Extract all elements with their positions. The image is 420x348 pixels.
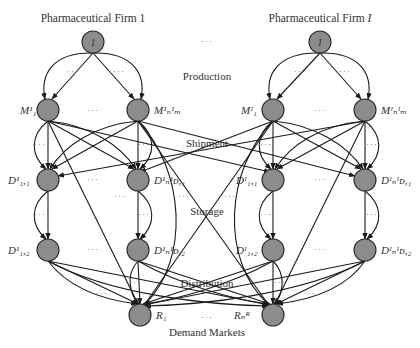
svg-text:···: ··· [67,66,79,76]
svg-text:···: ··· [87,244,99,254]
svg-text:···: ··· [138,139,150,149]
svg-text:R₁: R₁ [155,309,167,321]
svg-text:···: ··· [34,139,46,149]
node-firm-I: I [309,31,331,53]
node-manufacturing-plant: M¹ₙ¹ₘ [127,99,181,121]
svg-text:···: ··· [304,288,316,298]
svg-text:···: ··· [366,209,378,219]
node-firm-1: 1 [82,31,104,53]
svg-text:···: ··· [96,288,108,298]
svg-text:···: ··· [274,277,286,287]
svg-text:···: ··· [87,105,99,115]
svg-text:···: ··· [87,174,99,184]
svg-text:D¹ₙ¹ᴅ,₁: D¹ₙ¹ᴅ,₁ [153,174,185,186]
distribution-edges [48,261,365,306]
svg-text:I: I [317,37,322,48]
svg-text:···: ··· [314,105,326,115]
node-demand-market: Rₙᴿ [233,304,284,326]
stage-demand-markets-label: Demand Markets [169,326,245,338]
svg-text:Mᴵₙᴵₘ: Mᴵₙᴵₘ [380,104,407,116]
svg-text:···: ··· [294,66,306,76]
svg-text:···: ··· [314,174,326,184]
node-distribution-center: D¹₁,₁ [7,169,59,191]
svg-text:···: ··· [113,66,125,76]
node-manufacturing-plant: Mᴵ₁ [240,99,284,121]
pharmaceutical-supply-chain-diagram: Pharmaceutical Firm 1 Pharmaceutical Fir… [0,0,420,348]
svg-text:···: ··· [260,139,272,149]
svg-text:···: ··· [314,244,326,254]
svg-text:···: ··· [125,277,137,287]
svg-text:···: ··· [260,209,272,219]
node-manufacturing-plant: Mᴵₙᴵₘ [354,99,407,121]
svg-text:Dᴵ₁,₂: Dᴵ₁,₂ [235,244,257,256]
node-storage-center: D¹ₙ¹ᴅ,₂ [127,239,185,261]
svg-text:···: ··· [201,312,213,322]
svg-text:···: ··· [34,209,46,219]
svg-text:M¹ₙ¹ₘ: M¹ₙ¹ₘ [153,104,181,116]
svg-text:Dᴵₙᴵᴅ,₁: Dᴵₙᴵᴅ,₁ [380,174,411,186]
svg-text:···: ··· [224,191,236,201]
node-storage-center: Dᴵ₁,₂ [235,239,284,261]
svg-text:Dᴵ₁,₁: Dᴵ₁,₁ [235,174,257,186]
node-storage-center: D¹₁,₂ [7,239,59,261]
svg-text:···: ··· [178,191,190,201]
svg-text:D¹₁,₂: D¹₁,₂ [7,244,30,256]
stage-production-label: Production [183,70,232,82]
svg-text:D¹ₙ¹ᴅ,₂: D¹ₙ¹ᴅ,₂ [153,244,185,256]
firm-I-title: Pharmaceutical Firm I [269,12,373,24]
node-storage-center: Dᴵₙᴵᴅ,₂ [354,239,411,261]
node-manufacturing-plant: M¹₁ [19,99,59,121]
node-demand-market: R₁ [129,304,167,326]
node-distribution-center: Dᴵₙᴵᴅ,₁ [354,169,411,191]
svg-text:Mᴵ₁: Mᴵ₁ [240,104,257,116]
svg-text:1: 1 [91,37,96,48]
svg-text:···: ··· [114,191,126,201]
firm-1-title: Pharmaceutical Firm 1 [41,12,146,24]
svg-text:···: ··· [138,209,150,219]
svg-text:M¹₁: M¹₁ [19,104,36,116]
node-distribution-center: D¹ₙ¹ᴅ,₁ [127,169,185,191]
firms-ellipsis: ··· [201,36,213,46]
network-canvas: Pharmaceutical Firm 1 Pharmaceutical Fir… [0,0,420,348]
svg-text:Rₙᴿ: Rₙᴿ [233,309,250,321]
svg-text:···: ··· [366,139,378,149]
svg-text:Dᴵₙᴵᴅ,₂: Dᴵₙᴵᴅ,₂ [380,244,411,256]
svg-text:···: ··· [339,66,351,76]
svg-text:D¹₁,₁: D¹₁,₁ [7,174,30,186]
